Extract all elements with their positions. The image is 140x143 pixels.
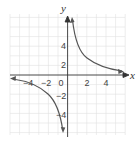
- axes: [10, 16, 129, 137]
- svg-text:4: 4: [104, 78, 109, 88]
- svg-text:2: 2: [61, 60, 66, 70]
- hyperbola-chart: y x −4 −2 0 2 4 4 2 −2 −4: [0, 0, 140, 143]
- svg-text:−4: −4: [56, 110, 66, 120]
- svg-text:0: 0: [59, 78, 64, 88]
- svg-text:2: 2: [85, 78, 90, 88]
- y-axis-label: y: [60, 2, 66, 14]
- x-axis-label: x: [129, 69, 135, 81]
- svg-text:4: 4: [61, 41, 66, 51]
- svg-text:−2: −2: [56, 91, 66, 101]
- svg-text:−4: −4: [23, 78, 33, 88]
- x-tick-labels: −4 −2 0 2 4: [23, 78, 109, 88]
- svg-text:−2: −2: [41, 78, 51, 88]
